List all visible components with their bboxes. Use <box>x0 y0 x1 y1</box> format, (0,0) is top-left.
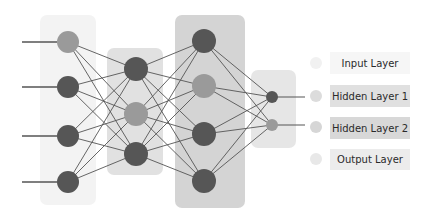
legend-item-hidden-layer-2: Hidden Layer 2 <box>310 117 410 139</box>
legend-dot-icon <box>310 121 322 133</box>
hidden2-node <box>192 122 216 146</box>
legend-dot-icon <box>310 153 322 165</box>
hidden2-node <box>192 169 216 193</box>
legend-dot-icon <box>310 57 322 69</box>
hidden1-node <box>124 142 148 166</box>
neural-network-diagram: Input Layer Hidden Layer 1 Hidden Layer … <box>0 0 428 213</box>
input-node <box>57 171 79 193</box>
legend-item-output-layer: Output Layer <box>310 149 410 170</box>
hidden1-node <box>124 57 148 81</box>
hidden-layer-1-nodes <box>124 57 148 166</box>
legend-label: Hidden Layer 2 <box>332 123 408 134</box>
legend-item-input-layer: Input Layer <box>310 52 410 74</box>
hidden1-node <box>124 102 148 126</box>
legend: Input Layer Hidden Layer 1 Hidden Layer … <box>310 52 410 170</box>
input-node <box>57 125 79 147</box>
legend-item-hidden-layer-1: Hidden Layer 1 <box>310 85 410 107</box>
legend-dot-icon <box>310 90 322 102</box>
input-node <box>57 76 79 98</box>
hidden2-node <box>192 29 216 53</box>
output-node <box>266 119 278 131</box>
legend-label: Output Layer <box>337 154 404 165</box>
legend-label: Hidden Layer 1 <box>332 91 408 102</box>
hidden2-node <box>192 74 216 98</box>
input-node <box>57 31 79 53</box>
output-node <box>266 91 278 103</box>
legend-label: Input Layer <box>342 58 400 69</box>
